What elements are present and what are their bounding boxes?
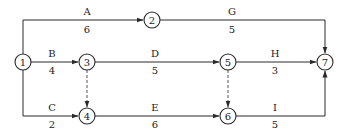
activity-b-name: B <box>48 48 55 59</box>
network-diagram: A 6 G 5 B 4 D 5 H 3 C 2 E 6 I 5 <box>0 0 346 135</box>
activity-g-name: G <box>228 6 236 17</box>
activity-d-duration: 5 <box>152 65 158 76</box>
svg-text:3: 3 <box>84 57 90 68</box>
activity-a-name: A <box>82 6 91 17</box>
activity-b: B 4 <box>31 48 78 76</box>
activity-h-name: H <box>271 48 280 59</box>
activity-g: G 5 <box>160 6 325 53</box>
activity-d: D 5 <box>95 48 219 76</box>
activity-b-duration: 4 <box>49 65 55 76</box>
activity-a-duration: 6 <box>84 24 90 35</box>
activity-e-duration: 6 <box>152 119 158 130</box>
svg-text:1: 1 <box>20 57 26 68</box>
node-2: 2 <box>144 12 160 28</box>
activity-g-duration: 5 <box>229 24 235 35</box>
activity-e-name: E <box>151 102 158 113</box>
activity-c: C 2 <box>23 70 78 130</box>
svg-text:6: 6 <box>225 111 231 122</box>
svg-text:7: 7 <box>322 57 328 68</box>
node-6: 6 <box>220 108 236 124</box>
node-4: 4 <box>79 108 95 124</box>
activity-d-name: D <box>151 48 159 59</box>
activity-i-duration: 5 <box>272 119 278 130</box>
activity-e: E 6 <box>95 102 219 130</box>
activity-i: I 5 <box>236 71 325 130</box>
activity-i-name: I <box>273 102 277 113</box>
node-5: 5 <box>220 54 236 70</box>
node-1: 1 <box>15 54 31 70</box>
svg-text:2: 2 <box>149 15 155 26</box>
activity-c-duration: 2 <box>49 119 55 130</box>
svg-text:4: 4 <box>84 111 90 122</box>
activity-h-duration: 3 <box>272 65 278 76</box>
activity-h: H 3 <box>236 48 316 76</box>
svg-text:5: 5 <box>225 57 231 68</box>
node-3: 3 <box>79 54 95 70</box>
node-7: 7 <box>317 54 333 70</box>
activity-a: A 6 <box>23 6 143 54</box>
activity-c-name: C <box>48 102 56 113</box>
